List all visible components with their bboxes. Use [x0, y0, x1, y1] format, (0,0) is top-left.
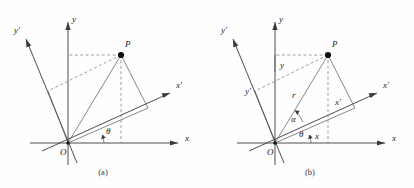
segment-yprime-foot-to-origin-b [255, 91, 275, 143]
x-prime-axis-b [249, 93, 377, 151]
y-prime-axis-arrow-b [233, 39, 238, 48]
caption-a: (a) [98, 167, 108, 177]
x-prime-coordinate-label-b: x' [334, 97, 342, 107]
y-prime-coordinate-label-b: y' [244, 86, 252, 96]
theta-label-b: θ [299, 129, 304, 139]
segment-p-to-x-prime-b [328, 55, 355, 108]
origin-marker-b [273, 141, 276, 144]
segment-p-to-x-prime-a [121, 55, 148, 108]
x-coordinate-label-b: x [314, 131, 319, 141]
point-p-marker-a [118, 52, 124, 58]
y-prime-axis-label-a: y' [13, 25, 21, 35]
alpha-label-b: α [291, 114, 296, 124]
point-p-label-a: P [124, 39, 131, 49]
point-p-marker-b [325, 52, 331, 58]
caption-b: (b) [305, 167, 315, 177]
y-axis-arrow-a [65, 22, 70, 30]
x-axis-arrow-a [170, 140, 178, 145]
segment-yprime-foot-to-origin-a [48, 91, 68, 143]
y-prime-axis-label-b: y' [220, 25, 228, 35]
panel-b-diagram: y x y' x' O P y y' r x' x θ α (b) [207, 0, 414, 188]
figure-root: y x y' x' O P θ (a) [0, 0, 414, 188]
x-axis-label-b: x [391, 133, 396, 143]
origin-label-b: O [267, 147, 274, 157]
x-prime-axis-arrow-a [162, 93, 171, 98]
x-prime-axis-a [42, 93, 170, 151]
y-axis-arrow-b [272, 22, 277, 30]
panel-a-diagram: y x y' x' O P θ (a) [0, 0, 207, 188]
r-label-b: r [292, 90, 296, 100]
y-axis-label-a: y [71, 14, 76, 24]
panel-b: y x y' x' O P y y' r x' x θ α (b) [207, 0, 414, 188]
x-axis-label-a: x [184, 133, 189, 143]
point-p-label-b: P [331, 39, 338, 49]
x-prime-axis-label-a: x' [175, 80, 183, 90]
y-coordinate-label-b: y [279, 60, 284, 70]
y-axis-label-b: y [278, 14, 283, 24]
y-prime-axis-arrow-a [26, 39, 31, 48]
x-prime-axis-arrow-b [369, 93, 378, 98]
theta-label-a: θ [106, 126, 111, 136]
panel-a: y x y' x' O P θ (a) [0, 0, 207, 188]
origin-label-a: O [60, 147, 67, 157]
x-prime-axis-label-b: x' [382, 80, 390, 90]
origin-marker-a [66, 141, 69, 144]
x-axis-arrow-b [377, 140, 385, 145]
